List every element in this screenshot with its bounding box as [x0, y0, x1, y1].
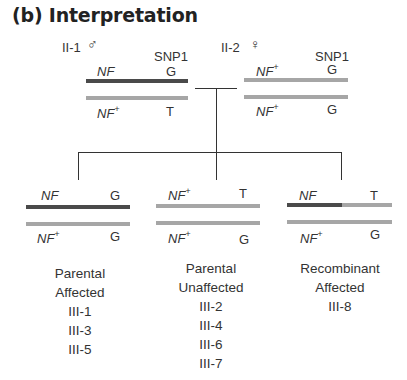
- snp-allele: T: [239, 186, 247, 201]
- female-symbol-icon: ♀: [250, 36, 261, 52]
- allele-label: NF+: [168, 229, 191, 246]
- snp-label: SNP1: [154, 49, 188, 64]
- individual-id: III-7: [151, 354, 271, 373]
- allele-label: NF+: [97, 104, 120, 121]
- chromosome-bar: [156, 221, 260, 225]
- male-symbol-icon: ♂: [87, 36, 98, 52]
- snp-allele: T: [166, 104, 174, 119]
- individual-id: III-3: [30, 321, 130, 340]
- offspring-drop-line: [216, 152, 217, 180]
- descent-line: [216, 88, 217, 152]
- allele-label: NF+: [256, 102, 279, 119]
- class-label: Parental Affected III-1 III-3 III-5: [30, 264, 130, 359]
- allele-label: NF: [41, 188, 58, 203]
- chromosome-bar: [86, 79, 188, 83]
- allele-label: NF+: [256, 62, 279, 79]
- chromosome-bar: [156, 204, 260, 208]
- snp-allele: G: [327, 62, 337, 77]
- snp-allele: T: [370, 188, 378, 203]
- figure-title: (b) Interpretation: [12, 4, 198, 26]
- chromosome-bar: [287, 220, 392, 224]
- chromosome-bar: [26, 222, 130, 226]
- allele-label: NF+: [168, 186, 191, 203]
- individual-id: III-1: [30, 302, 130, 321]
- offspring-drop-line: [341, 152, 342, 180]
- individual-id: III-4: [151, 316, 271, 335]
- allele-label: NF+: [37, 229, 60, 246]
- individual-id: III-5: [30, 340, 130, 359]
- offspring-drop-line: [78, 152, 79, 180]
- chromosome-bar-recombinant-right: [342, 203, 392, 207]
- chromosome-bar: [244, 95, 348, 99]
- snp-allele: G: [370, 227, 380, 242]
- allele-label: NF: [97, 64, 114, 79]
- chromosome-bar: [86, 96, 188, 100]
- individual-id: II-2: [221, 40, 240, 55]
- sibship-line: [78, 152, 342, 153]
- chromosome-bar: [244, 78, 348, 82]
- chromosome-bar-recombinant-left: [287, 203, 342, 207]
- class-label: Recombinant Affected III-8: [285, 259, 395, 316]
- individual-id: III-2: [151, 297, 271, 316]
- chromosome-bar: [26, 205, 130, 209]
- snp-allele: G: [166, 64, 176, 79]
- snp-allele: G: [239, 232, 249, 247]
- snp-allele: G: [327, 102, 337, 117]
- class-label: Parental Unaffected III-2 III-4 III-6 II…: [151, 259, 271, 373]
- individual-id: II-1: [62, 40, 81, 55]
- allele-label: NF: [299, 188, 316, 203]
- snp-allele: G: [110, 188, 120, 203]
- snp-allele: G: [110, 229, 120, 244]
- allele-label: NF+: [300, 229, 323, 246]
- individual-id: III-8: [285, 297, 395, 316]
- individual-id: III-6: [151, 335, 271, 354]
